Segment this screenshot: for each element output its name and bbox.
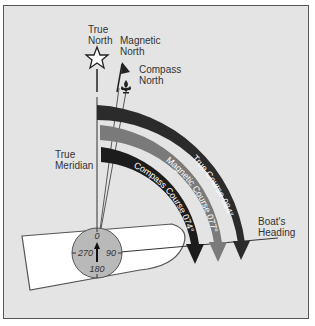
- true-meridian-label: True Meridian: [55, 149, 93, 171]
- compass-north-label: Compass North: [139, 64, 184, 86]
- magnetic-north-flag-icon: [117, 62, 130, 92]
- compass-north-fleur-icon: [121, 80, 131, 94]
- boats-heading-label: Boat's Heading: [258, 216, 295, 238]
- magnetic-north-label: Magnetic North: [120, 35, 163, 57]
- svg-text:0: 0: [94, 231, 99, 241]
- svg-text:180: 180: [89, 264, 104, 274]
- true-north-star-icon: [86, 47, 108, 68]
- compass-course-diagram: True Course 084° Magnetic Course 077° Co…: [0, 0, 315, 326]
- true-north-label: True North: [88, 24, 112, 46]
- svg-text:270: 270: [77, 248, 93, 258]
- compass-dial: 0 90 180 270: [72, 228, 122, 278]
- svg-text:90: 90: [106, 248, 116, 258]
